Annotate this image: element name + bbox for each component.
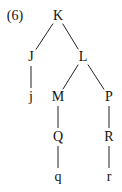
tree-node-Q: Q	[53, 130, 63, 144]
tree-node-r: r	[107, 170, 112, 184]
tree-node-R: R	[104, 130, 113, 144]
tree-node-P: P	[105, 90, 113, 104]
tree-node-J: J	[28, 50, 33, 64]
tree-node-M: M	[52, 90, 64, 104]
tree-node-j: j	[29, 90, 33, 104]
example-number: (6)	[7, 9, 23, 23]
tree-node-q: q	[55, 170, 62, 184]
tree-edge	[36, 24, 53, 50]
tree-node-L: L	[79, 50, 88, 64]
tree-edge	[63, 24, 79, 50]
tree-edge	[63, 65, 78, 90]
tree-diagram: (6) KJLjMPQRqr	[0, 0, 122, 192]
tree-edge	[88, 65, 104, 90]
tree-node-K: K	[53, 9, 63, 23]
